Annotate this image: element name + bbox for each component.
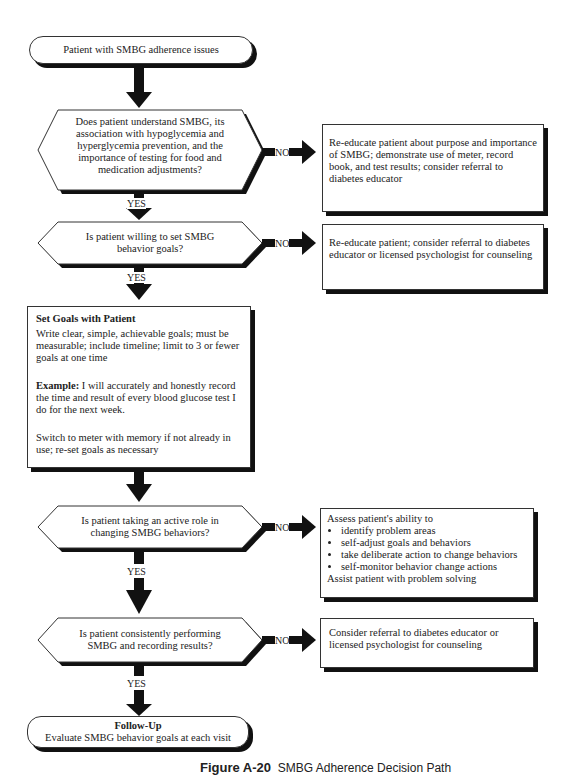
bullet-item: identify problem areas [341,525,527,537]
decision-4-yes-label: YES [127,678,146,689]
decision-3-no-action-box: Assess patient's ability to identify pro… [320,508,534,598]
decision-2-yes-label: YES [127,272,146,283]
decision-1-yes-label: YES [127,198,146,209]
bullet-item: take deliberate action to change behavio… [341,549,527,561]
bullet-item: self-monitor behavior change actions [341,561,527,573]
decision-1-no-action-box: Re-educate patient about purpose and imp… [322,124,544,212]
decision-1-question: Does patient understand SMBG, its associ… [60,116,240,176]
set-goals-footer: Switch to meter with memory if not alrea… [36,432,242,456]
set-goals-example: Example: I will accurately and honestly … [36,380,242,416]
decision-4-no-label: NO [275,635,289,646]
example-label: Example: [36,380,79,391]
decision-3-intro: Assess patient's ability to [327,513,527,525]
decision-3-yes-label: YES [127,566,146,577]
start-terminal: Patient with SMBG adherence issues [29,36,253,64]
decision-1-no-label: NO [275,147,289,158]
caption-text: SMBG Adherence Decision Path [278,761,451,775]
decision-4-question: Is patient consistently performing SMBG … [75,628,225,652]
decision-2-no-action-box: Re-educate patient; consider referral to… [322,224,544,290]
decision-1-no-action: Re-educate patient about purpose and imp… [323,125,543,197]
end-text: Evaluate SMBG behavior goals at each vis… [28,732,248,744]
decision-4-no-action: Consider referral to diabetes educator o… [321,619,533,659]
end-title: Follow-Up [28,720,248,732]
caption-label: Figure A-20 [200,760,271,775]
start-text: Patient with SMBG adherence issues [30,37,252,56]
decision-3-outro: Assist patient with problem solving [327,573,527,585]
decision-2-question: Is patient willing to set SMBG behavior … [80,231,220,255]
decision-3-question: Is patient taking an active role in chan… [75,515,225,539]
decision-3-bullets: identify problem areas self-adjust goals… [327,525,527,573]
set-goals-body: Write clear, simple, achievable goals; m… [36,328,242,364]
set-goals-title: Set Goals with Patient [36,313,242,325]
decision-2-no-label: NO [275,238,289,249]
figure-caption: Figure A-20 SMBG Adherence Decision Path [200,760,451,775]
set-goals-box: Set Goals with Patient Write clear, simp… [27,306,251,468]
bullet-item: self-adjust goals and behaviors [341,537,527,549]
decision-4-no-action-box: Consider referral to diabetes educator o… [320,618,534,668]
decision-2-no-action: Re-educate patient; consider referral to… [323,225,543,273]
end-terminal: Follow-Up Evaluate SMBG behavior goals a… [27,716,249,748]
decision-3-no-label: NO [275,522,289,533]
